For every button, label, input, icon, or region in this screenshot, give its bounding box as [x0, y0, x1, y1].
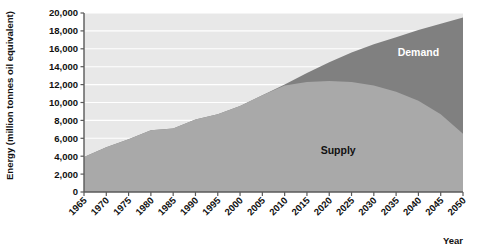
y-axis-title: Energy (million tonnes oil equivalent) — [4, 11, 15, 180]
x-axis-tick-label: 2040 — [401, 195, 424, 218]
series-inline-label-supply: Supply — [321, 144, 356, 156]
y-axis-ticks-group: 02,0004,0006,0008,00010,00012,00014,0001… — [49, 7, 84, 197]
y-axis-tick-label: 10,000 — [49, 97, 78, 108]
chart-canvas: 02,0004,0006,0008,00010,00012,00014,0001… — [0, 0, 497, 252]
x-axis-tick-label: 2010 — [267, 195, 290, 218]
x-axis-tick-label: 2050 — [445, 195, 468, 218]
y-axis-tick-label: 8,000 — [54, 115, 78, 126]
x-axis-tick-label: 2035 — [378, 194, 401, 217]
x-axis-tick-label: 1990 — [178, 195, 201, 218]
y-axis-tick-label: 20,000 — [49, 7, 78, 18]
x-axis-tick-label: 2015 — [289, 194, 312, 217]
y-axis-tick-label: 14,000 — [49, 61, 78, 72]
x-axis-tick-label: 2000 — [222, 195, 245, 218]
x-axis-tick-label: 1970 — [88, 195, 111, 218]
y-axis-tick-label: 18,000 — [49, 25, 78, 36]
y-axis-tick-label: 0 — [73, 186, 78, 197]
x-axis-tick-label: 2025 — [334, 194, 357, 217]
x-axis-tick-label: 1965 — [66, 194, 89, 217]
x-axis-tick-label: 2005 — [245, 194, 268, 217]
x-axis-tick-label: 1985 — [155, 194, 178, 217]
x-axis-title: Year — [443, 235, 463, 246]
x-axis-tick-label: 1980 — [133, 195, 156, 218]
y-axis-tick-label: 6,000 — [54, 133, 78, 144]
x-axis-tick-label: 1995 — [200, 194, 223, 217]
x-axis-tick-label: 1975 — [111, 194, 134, 217]
y-axis-tick-label: 2,000 — [54, 169, 78, 180]
y-axis-tick-label: 4,000 — [54, 151, 78, 162]
x-axis-tick-label: 2030 — [356, 195, 379, 218]
series-inline-label-demand: Demand — [398, 46, 439, 58]
y-axis-tick-label: 12,000 — [49, 79, 78, 90]
energy-supply-demand-area-chart: 02,0004,0006,0008,00010,00012,00014,0001… — [0, 0, 497, 252]
y-axis-tick-label: 16,000 — [49, 43, 78, 54]
x-axis-tick-label: 2020 — [311, 195, 334, 218]
x-axis-tick-label: 2045 — [423, 194, 446, 217]
x-axis-ticks-group: 1965197019751980198519901995200020052010… — [66, 192, 468, 217]
